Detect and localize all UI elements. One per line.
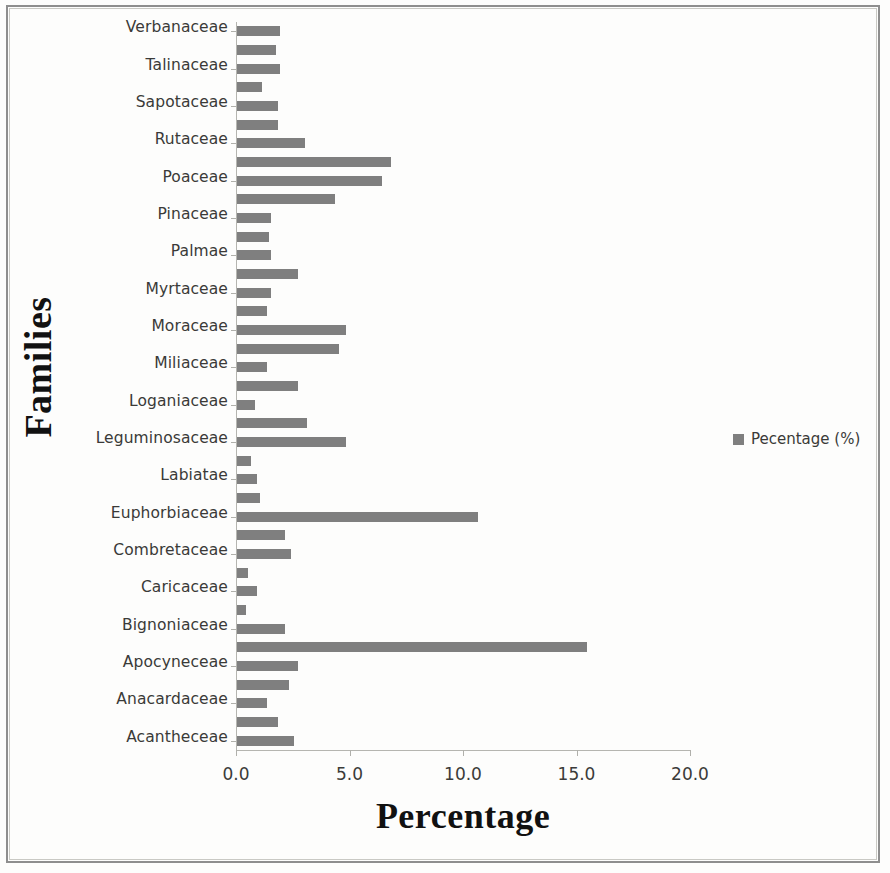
bar — [237, 26, 280, 36]
y-axis-category-label: Caricaceae — [141, 578, 228, 596]
y-axis-category-label: Combretaceae — [113, 541, 228, 559]
bar-fill — [237, 344, 339, 354]
bar — [237, 213, 271, 223]
bar-fill — [237, 717, 278, 727]
bar — [237, 661, 298, 671]
x-axis-tick — [463, 750, 464, 756]
bar-fill — [237, 176, 382, 186]
bar-fill — [237, 437, 346, 447]
bar — [237, 306, 267, 316]
y-axis-tick — [231, 143, 236, 144]
bar — [237, 82, 262, 92]
x-axis-tick-label: 20.0 — [671, 764, 709, 784]
bar-fill — [237, 250, 271, 260]
bar-fill — [237, 45, 276, 55]
bar — [237, 680, 289, 690]
y-axis-tick — [231, 591, 236, 592]
bar-fill — [237, 325, 346, 335]
bar — [237, 138, 305, 148]
bar — [237, 512, 478, 522]
bar-fill — [237, 213, 271, 223]
bar — [237, 64, 280, 74]
bar — [237, 624, 285, 634]
bar-fill — [237, 82, 262, 92]
y-axis-category-label: Talinaceae — [146, 56, 228, 74]
bar-fill — [237, 120, 278, 130]
bar-fill — [237, 698, 267, 708]
y-axis-category-label: Myrtaceae — [146, 280, 229, 298]
y-axis-tick — [231, 181, 236, 182]
bar — [237, 194, 335, 204]
y-axis-category-label: Palmae — [171, 242, 228, 260]
bar — [237, 568, 248, 578]
bar — [237, 736, 294, 746]
bar-fill — [237, 194, 335, 204]
y-axis-category-label: Leguminosaceae — [96, 429, 228, 447]
y-axis-tick — [231, 554, 236, 555]
y-axis-category-label: Labiatae — [160, 466, 228, 484]
bar — [237, 717, 278, 727]
y-axis-tick — [231, 479, 236, 480]
bar-fill — [237, 493, 260, 503]
bar-fill — [237, 232, 269, 242]
y-axis-category-label: Moraceae — [151, 317, 228, 335]
bar — [237, 325, 346, 335]
y-axis-tick — [231, 330, 236, 331]
bar — [237, 269, 298, 279]
bar — [237, 120, 278, 130]
y-axis-labels: VerbanaceaeTalinaceaeSapotaceaeRutaceaeP… — [0, 22, 228, 750]
bar — [237, 530, 285, 540]
y-axis-tick — [231, 405, 236, 406]
x-axis-tick — [577, 750, 578, 756]
bar — [237, 288, 271, 298]
bar-fill — [237, 530, 285, 540]
bar-fill — [237, 605, 246, 615]
bar-fill — [237, 586, 257, 596]
x-axis-tick — [690, 750, 691, 756]
y-axis-tick — [231, 517, 236, 518]
bar-fill — [237, 381, 298, 391]
x-axis-tick — [236, 750, 237, 756]
bar — [237, 642, 587, 652]
y-axis-category-label: Poaceae — [162, 168, 228, 186]
bar-fill — [237, 269, 298, 279]
y-axis-tick — [231, 442, 236, 443]
y-axis-category-label: Loganiaceae — [129, 392, 228, 410]
legend-swatch-icon — [733, 434, 744, 445]
y-axis-category-label: Rutaceae — [155, 130, 228, 148]
bar — [237, 381, 298, 391]
bar — [237, 232, 269, 242]
y-axis-category-label: Pinaceae — [157, 205, 228, 223]
bar-fill — [237, 549, 291, 559]
bar-fill — [237, 736, 294, 746]
bar-fill — [237, 680, 289, 690]
bar-fill — [237, 26, 280, 36]
bar — [237, 456, 251, 466]
y-axis-category-label: Apocyneceae — [123, 653, 228, 671]
y-axis-tick — [231, 703, 236, 704]
bar — [237, 493, 260, 503]
y-axis-tick — [231, 367, 236, 368]
bar-fill — [237, 288, 271, 298]
bar-fill — [237, 101, 278, 111]
chart-legend: Pecentage (%) — [733, 430, 860, 448]
bar-fill — [237, 400, 255, 410]
y-axis-tick — [231, 106, 236, 107]
y-axis-category-label: Bignoniaceae — [122, 616, 228, 634]
bar-fill — [237, 418, 307, 428]
bar-fill — [237, 474, 257, 484]
y-axis-category-label: Miliaceae — [154, 354, 228, 372]
bar — [237, 362, 267, 372]
bar — [237, 400, 255, 410]
x-axis-title: Percentage — [236, 795, 690, 837]
x-axis-tick-label: 10.0 — [444, 764, 482, 784]
bar — [237, 250, 271, 260]
bar-fill — [237, 661, 298, 671]
bar-fill — [237, 157, 391, 167]
y-axis-tick — [231, 218, 236, 219]
bar — [237, 474, 257, 484]
bar — [237, 549, 291, 559]
x-axis-tick-label: 5.0 — [336, 764, 363, 784]
bar — [237, 176, 382, 186]
plot-area: 0.05.010.015.020.0 — [236, 22, 690, 750]
